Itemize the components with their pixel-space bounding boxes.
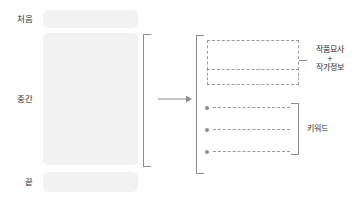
description-group-label: 작품묘사 + 작가정보 bbox=[309, 45, 351, 74]
stage-label-end: 끝 bbox=[4, 178, 33, 187]
description-label-line-1: 작품묘사 bbox=[316, 45, 345, 54]
keyword-row-3 bbox=[205, 149, 290, 154]
keyword-line-1 bbox=[213, 107, 290, 108]
description-box-upper bbox=[207, 40, 299, 70]
keyword-row-1 bbox=[205, 105, 290, 110]
middle-block bbox=[43, 33, 138, 165]
keyword-line-2 bbox=[213, 129, 290, 130]
end-block bbox=[43, 172, 138, 192]
metadata-outer-bracket bbox=[196, 35, 204, 174]
keyword-group-label: 키워드 bbox=[307, 124, 347, 135]
stage-label-beginning: 처음 bbox=[4, 15, 33, 24]
description-label-line-2: 작가정보 bbox=[316, 63, 345, 72]
bullet-dot-icon bbox=[205, 150, 209, 154]
beginning-block bbox=[43, 10, 138, 28]
description-box-lower bbox=[207, 68, 299, 85]
keyword-row-2 bbox=[205, 127, 290, 132]
bullet-dot-icon bbox=[205, 106, 209, 110]
diagram-canvas: 처음 중간 끝 작품묘사 + 작가정보 bbox=[0, 0, 353, 204]
description-connector bbox=[299, 60, 307, 61]
bullet-dot-icon bbox=[205, 128, 209, 132]
keyword-group-bracket bbox=[291, 103, 299, 155]
stage-label-middle: 중간 bbox=[4, 95, 33, 104]
keyword-line-3 bbox=[213, 151, 290, 152]
transform-arrow bbox=[158, 91, 192, 105]
keyword-label-text: 키워드 bbox=[307, 124, 329, 133]
middle-section-bracket bbox=[143, 34, 151, 167]
